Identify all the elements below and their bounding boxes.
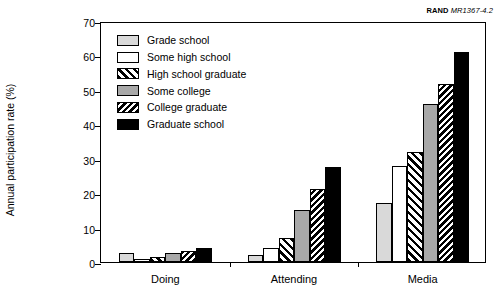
bar: [423, 104, 439, 262]
x-axis-tick: [358, 262, 359, 267]
legend-item: Some college: [117, 82, 246, 99]
bar: [279, 238, 295, 262]
bar: [196, 248, 212, 262]
y-axis-tick-label: 40: [69, 121, 95, 132]
legend-item-label: Some college: [147, 86, 211, 97]
y-axis-tick: [95, 126, 101, 127]
bar: [310, 189, 326, 262]
source-document-id: MR1367-4.2: [451, 6, 493, 15]
legend-item: Graduate school: [117, 116, 246, 133]
legend-item: High school graduate: [117, 66, 246, 83]
bar: [150, 257, 166, 263]
y-axis-title: Annual participation rate (%): [2, 0, 18, 300]
legend-swatch: [117, 119, 139, 130]
legend-item-label: Some high school: [147, 52, 230, 63]
bar: [376, 203, 392, 262]
legend-swatch: [117, 85, 139, 96]
bar: [165, 253, 181, 262]
y-axis-tick: [95, 23, 101, 24]
y-axis-tick: [95, 230, 101, 231]
bar: [134, 259, 150, 262]
y-axis-tick-label: 70: [69, 18, 95, 29]
legend-swatch: [117, 35, 139, 46]
y-axis-tick-label: 30: [69, 155, 95, 166]
legend-item-label: College graduate: [147, 102, 227, 113]
y-axis-tick-label: 50: [69, 87, 95, 98]
x-axis-group-label: Media: [408, 273, 438, 285]
bar: [263, 248, 279, 262]
bar: [294, 210, 310, 262]
bar: [392, 166, 408, 262]
y-axis-tick-label: 60: [69, 52, 95, 63]
x-axis-group-label: Attending: [271, 273, 317, 285]
bar: [119, 253, 135, 262]
legend-item: Some high school: [117, 49, 246, 66]
legend-swatch: [117, 68, 139, 79]
legend-item: College graduate: [117, 99, 246, 116]
y-axis-tick: [95, 195, 101, 196]
legend-item: Grade school: [117, 32, 246, 49]
source-label: RAND MR1367-4.2: [426, 6, 493, 15]
y-axis-tick: [95, 264, 101, 265]
y-axis-title-text: Annual participation rate (%): [4, 84, 16, 217]
bar: [454, 52, 470, 262]
y-axis-tick: [95, 92, 101, 93]
legend: Grade schoolSome high schoolHigh school …: [117, 32, 246, 133]
legend-item-label: Grade school: [147, 35, 209, 46]
bar: [248, 255, 264, 262]
bar: [407, 152, 423, 262]
bar: [438, 84, 454, 262]
legend-swatch: [117, 52, 139, 63]
legend-item-label: Graduate school: [147, 119, 224, 130]
bar: [181, 251, 197, 262]
y-axis-tick: [95, 57, 101, 58]
legend-swatch: [117, 102, 139, 113]
y-axis-tick: [95, 161, 101, 162]
y-axis-tick-label: 20: [69, 190, 95, 201]
source-org: RAND: [426, 6, 448, 15]
bar: [325, 167, 341, 262]
legend-item-label: High school graduate: [147, 69, 246, 80]
x-axis-group-label: Doing: [151, 273, 180, 285]
y-axis-tick-label: 0: [69, 259, 95, 270]
chart-figure: RAND MR1367-4.2 Annual participation rat…: [0, 0, 499, 300]
x-axis-tick: [230, 262, 231, 267]
y-axis-tick-label: 10: [69, 224, 95, 235]
